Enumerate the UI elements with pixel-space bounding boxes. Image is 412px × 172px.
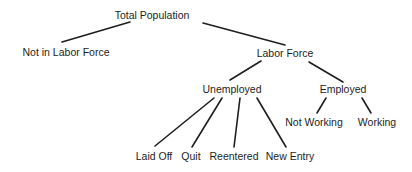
node-not-in-labor-force: Not in Labor Force	[23, 46, 110, 58]
node-reentered: Reentered	[209, 150, 258, 162]
node-laid-off: Laid Off	[136, 150, 173, 162]
node-quit: Quit	[181, 150, 200, 162]
node-new-entry: New Entry	[266, 150, 314, 162]
edge-unemployed-to-reentered	[234, 98, 240, 147]
edge-labor-force-to-unemployed	[230, 61, 261, 80]
edge-unemployed-to-laid-off	[155, 98, 214, 146]
edge-labor-force-to-employed	[309, 62, 343, 82]
node-working: Working	[358, 116, 396, 128]
node-total-population: Total Population	[115, 9, 190, 21]
edge-total-to-not-in-labor-force	[62, 22, 130, 42]
node-unemployed: Unemployed	[203, 83, 262, 95]
edge-total-to-labor-force	[203, 23, 285, 45]
edge-unemployed-to-quit	[192, 98, 222, 147]
node-employed: Employed	[320, 83, 367, 95]
node-not-working: Not Working	[285, 116, 343, 128]
node-labor-force: Labor Force	[257, 47, 314, 59]
edge-unemployed-to-new-entry	[257, 98, 286, 147]
edge-employed-to-working	[362, 98, 371, 113]
labor-force-tree-diagram: Total Population Not in Labor Force Labo…	[0, 0, 412, 172]
edge-employed-to-not-working	[317, 98, 326, 113]
